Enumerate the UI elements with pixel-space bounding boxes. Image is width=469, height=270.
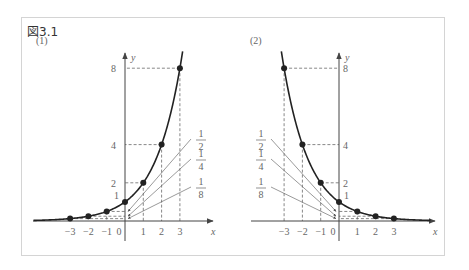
leader-line <box>271 187 336 219</box>
x-tick-label: −2 <box>83 226 94 237</box>
y-tick-label: 1 <box>114 190 119 201</box>
y-axis-label: y <box>344 52 350 63</box>
panel-2: (2)xy−3−2−101231248121418 <box>250 35 438 241</box>
fraction-denominator: 8 <box>259 189 264 200</box>
panel-label: (1) <box>36 35 48 47</box>
data-point <box>159 142 165 148</box>
data-point <box>373 213 379 219</box>
fraction-numerator: 1 <box>199 128 204 139</box>
data-point <box>104 208 110 214</box>
x-tick-label: 1 <box>355 226 360 237</box>
data-point <box>140 180 146 186</box>
leader-line <box>271 159 336 216</box>
data-point <box>336 199 342 205</box>
x-tick-label: 2 <box>373 226 378 237</box>
fraction-numerator: 1 <box>199 148 204 159</box>
y-axis-label: y <box>130 52 136 63</box>
x-tick-label: −3 <box>279 226 290 237</box>
fraction-numerator: 1 <box>259 176 264 187</box>
fraction-denominator: 4 <box>259 161 264 172</box>
fraction-numerator: 1 <box>199 176 204 187</box>
function-curve <box>34 51 183 220</box>
y-tick-label: 2 <box>343 178 348 189</box>
leader-line <box>128 187 191 219</box>
x-tick-label: 0 <box>117 226 122 237</box>
data-point <box>177 65 183 71</box>
leader-line <box>128 159 191 216</box>
fraction-numerator: 1 <box>259 128 264 139</box>
x-tick-label: 0 <box>331 226 336 237</box>
data-point <box>318 180 324 186</box>
y-tick-label: 1 <box>344 190 349 201</box>
x-tick-label: 3 <box>177 226 182 237</box>
panel-label: (2) <box>250 35 262 47</box>
data-point <box>85 213 91 219</box>
x-axis-label: x <box>432 226 438 237</box>
data-point <box>391 216 397 222</box>
data-point <box>67 216 73 222</box>
x-tick-label: 2 <box>159 226 164 237</box>
x-axis-label: x <box>210 226 216 237</box>
fraction-denominator: 4 <box>199 161 204 172</box>
x-tick-label: −1 <box>101 226 112 237</box>
fraction-numerator: 1 <box>259 148 264 159</box>
x-tick-label: −2 <box>297 226 308 237</box>
x-tick-label: −1 <box>315 226 326 237</box>
data-point <box>354 208 360 214</box>
x-tick-label: 3 <box>391 226 396 237</box>
function-curve <box>281 51 430 220</box>
y-tick-label: 4 <box>343 140 348 151</box>
y-tick-label: 8 <box>111 63 116 74</box>
x-tick-label: −3 <box>65 226 76 237</box>
data-point <box>122 199 128 205</box>
data-point <box>299 142 305 148</box>
figure-plots: (1)xy−3−2−101231248121418(2)xy−3−2−10123… <box>0 0 469 270</box>
data-point <box>281 65 287 71</box>
y-tick-label: 4 <box>111 140 116 151</box>
x-tick-label: 1 <box>141 226 146 237</box>
y-tick-label: 2 <box>111 178 116 189</box>
panel-1: (1)xy−3−2−101231248121418 <box>33 35 216 241</box>
y-tick-label: 8 <box>343 63 348 74</box>
fraction-denominator: 8 <box>199 189 204 200</box>
